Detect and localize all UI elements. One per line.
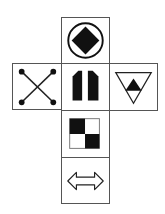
face-top <box>61 17 110 64</box>
x-with-dots-icon <box>13 64 61 109</box>
diamond-in-circle-icon <box>62 18 109 63</box>
face-left <box>12 63 62 110</box>
face-lower <box>61 110 110 158</box>
checkerboard-icon <box>62 111 109 157</box>
twin-pillars-icon <box>62 64 109 110</box>
face-center <box>61 63 110 111</box>
double-arrow-icon <box>62 158 109 203</box>
triangle-in-inverted-triangle-icon <box>110 64 157 110</box>
face-right <box>109 63 158 111</box>
face-bottom <box>61 157 110 204</box>
